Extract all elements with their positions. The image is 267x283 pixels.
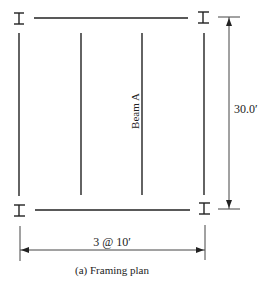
arrow-down-icon (226, 200, 232, 208)
vertical-dimension-label: 30.0′ (234, 102, 258, 116)
arrow-up-icon (226, 18, 232, 26)
framing-plan-diagram: Beam A 30.0′ 3 @ 10′ (a) Framing plan (0, 0, 267, 283)
beam-a-label: Beam A (129, 93, 141, 129)
column-icon-top-right (198, 12, 209, 23)
column-icon-top-left (14, 13, 24, 24)
horizontal-dimension-label: 3 @ 10′ (93, 235, 131, 249)
column-icon-bottom-right (199, 203, 210, 214)
figure-caption: (a) Framing plan (75, 264, 149, 277)
column-icon-bottom-left (14, 205, 25, 216)
arrow-right-icon (196, 247, 204, 253)
arrow-left-icon (21, 247, 29, 253)
